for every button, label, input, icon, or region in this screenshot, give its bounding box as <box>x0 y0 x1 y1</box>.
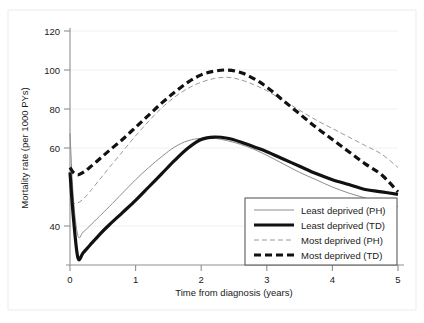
y-tick-label-60: 60 <box>49 143 60 154</box>
x-axis-title: Time from diagnosis (years) <box>175 287 292 298</box>
chart-legend[interactable]: Least deprived (PH) Least deprived (TD) … <box>245 198 397 265</box>
y-tick-label-80: 80 <box>49 104 60 115</box>
y-tick-label-40: 40 <box>49 221 60 232</box>
x-tick-label-3: 3 <box>264 274 269 285</box>
legend-label-most-deprived-ph: Most deprived (PH) <box>301 235 383 246</box>
legend-label-most-deprived-td: Most deprived (TD) <box>301 250 382 261</box>
mortality-rate-line-chart: 120 100 80 60 40 0 1 2 3 4 5 Time from d… <box>0 0 424 323</box>
legend-label-least-deprived-td: Least deprived (TD) <box>301 220 385 231</box>
x-tick-label-0: 0 <box>67 274 72 285</box>
legend-label-least-deprived-ph: Least deprived (PH) <box>301 205 385 216</box>
figure-container: 120 100 80 60 40 0 1 2 3 4 5 Time from d… <box>0 0 424 323</box>
x-tick-label-4: 4 <box>330 274 335 285</box>
x-tick-label-2: 2 <box>199 274 204 285</box>
y-axis-title: Mortality rate (per 1000 PYs) <box>19 87 30 208</box>
x-tick-label-5: 5 <box>395 274 400 285</box>
x-tick-label-1: 1 <box>133 274 138 285</box>
y-tick-label-100: 100 <box>44 65 60 76</box>
cropped-caption-remnant <box>0 0 424 2</box>
y-tick-label-120: 120 <box>44 26 60 37</box>
